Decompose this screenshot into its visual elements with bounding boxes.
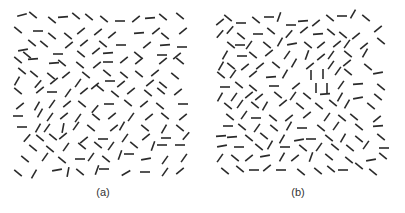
line-segment <box>292 83 300 89</box>
line-segment <box>60 113 68 119</box>
line-segment <box>226 114 234 120</box>
line-segment <box>299 145 307 151</box>
line-segment <box>303 93 311 99</box>
line-segment <box>374 26 382 32</box>
line-segment <box>132 16 140 22</box>
line-segment <box>171 73 179 79</box>
line-segment <box>373 72 383 74</box>
line-segment <box>80 137 88 143</box>
line-segment <box>280 153 285 162</box>
line-segment <box>230 70 236 78</box>
line-segment <box>62 72 70 78</box>
line-segment <box>59 133 67 139</box>
line-segment <box>235 82 243 88</box>
line-segment <box>181 154 187 162</box>
line-segment <box>355 136 363 142</box>
line-segment <box>331 144 339 150</box>
line-segment <box>78 101 86 107</box>
line-segment <box>251 102 259 108</box>
line-segment <box>325 135 333 141</box>
line-segment <box>297 169 305 175</box>
line-segment <box>254 124 260 132</box>
line-segment <box>249 71 257 77</box>
line-segment <box>117 81 125 87</box>
line-segment <box>36 124 41 133</box>
line-segment <box>373 126 383 127</box>
line-segment <box>324 113 330 121</box>
line-segment <box>362 15 370 21</box>
line-segment <box>379 153 387 159</box>
line-segment <box>120 122 125 131</box>
line-segment <box>344 40 350 48</box>
line-segment <box>256 63 264 69</box>
line-segment <box>267 28 275 34</box>
line-segment <box>128 113 134 121</box>
texture-panel-a <box>0 0 200 185</box>
line-segment <box>159 58 167 64</box>
line-segment <box>47 73 55 79</box>
line-segment <box>77 51 85 57</box>
line-segment <box>82 72 90 78</box>
line-segment <box>72 13 80 19</box>
line-segment <box>77 28 85 34</box>
line-texture-b <box>203 0 405 185</box>
line-segment <box>176 125 184 131</box>
line-segment <box>145 114 153 120</box>
line-segment <box>67 167 69 177</box>
line-segment <box>352 33 360 39</box>
line-segment <box>298 21 308 22</box>
line-segment <box>160 45 170 46</box>
line-segment <box>223 51 228 60</box>
line-segment <box>377 134 385 140</box>
line-segment <box>345 157 353 163</box>
line-segment <box>15 77 20 86</box>
line-segment <box>21 156 29 162</box>
line-segment <box>245 92 253 98</box>
line-segment <box>144 90 152 96</box>
line-segment <box>88 153 94 161</box>
line-segment <box>231 155 239 161</box>
line-segment <box>241 111 247 119</box>
line-segment <box>309 152 312 161</box>
line-segment <box>52 169 62 171</box>
line-segment <box>345 100 350 109</box>
line-segment <box>176 58 184 64</box>
line-segment <box>63 101 71 107</box>
line-segment <box>108 113 116 119</box>
line-segment <box>344 51 352 57</box>
line-segment <box>141 125 149 131</box>
line-segment <box>363 49 368 58</box>
line-segment <box>263 102 268 111</box>
line-segment <box>327 29 335 35</box>
line-segment <box>231 93 237 101</box>
line-segment <box>162 125 167 134</box>
line-segment <box>272 62 280 68</box>
line-segment <box>92 48 100 54</box>
line-segment <box>269 115 277 121</box>
line-segment <box>249 85 257 91</box>
line-segment <box>28 59 38 60</box>
line-segment <box>65 89 71 97</box>
line-segment <box>328 61 334 69</box>
line-segment <box>122 134 128 142</box>
line-segment <box>174 89 182 95</box>
line-segment <box>286 30 292 38</box>
line-segment <box>47 113 53 121</box>
line-segment <box>353 84 363 85</box>
line-segment <box>162 156 168 164</box>
line-segment <box>14 27 22 33</box>
line-segment <box>94 29 102 35</box>
line-segment <box>237 33 245 39</box>
line-segment <box>285 115 293 121</box>
line-segment <box>216 19 224 25</box>
line-segment <box>241 64 249 70</box>
line-segment <box>96 85 104 91</box>
line-segment <box>48 17 56 23</box>
line-segment <box>102 156 110 162</box>
line-segment <box>265 50 273 56</box>
line-segment <box>92 105 98 113</box>
line-segment <box>369 169 377 175</box>
line-segment <box>92 114 100 120</box>
line-segment <box>176 168 184 174</box>
line-segment <box>317 42 325 48</box>
